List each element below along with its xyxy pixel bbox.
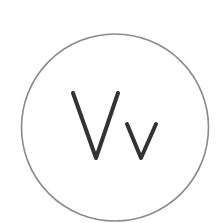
lowercase-v-glyph: [127, 124, 156, 158]
outline-circle: [22, 34, 209, 221]
uppercase-v-glyph: [73, 93, 118, 158]
vv-logo: Vv: [0, 0, 216, 223]
font-size-icon: [0, 0, 216, 223]
